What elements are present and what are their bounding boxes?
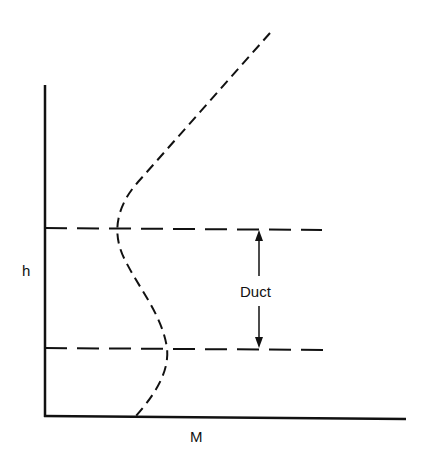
x-axis-label: M bbox=[190, 428, 203, 445]
duct-label: Duct bbox=[240, 283, 271, 300]
arrow-up-icon bbox=[255, 230, 263, 241]
m-profile-curve bbox=[117, 33, 270, 417]
duct-bottom-line bbox=[45, 348, 326, 350]
duct-top-line bbox=[45, 228, 322, 230]
y-axis-label: h bbox=[22, 262, 30, 279]
duct-diagram bbox=[0, 0, 426, 463]
x-axis bbox=[44, 416, 406, 419]
arrow-down-icon bbox=[255, 337, 263, 348]
